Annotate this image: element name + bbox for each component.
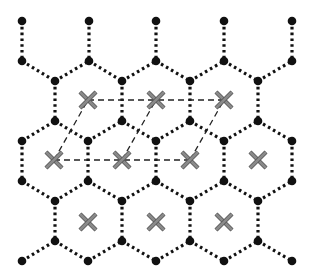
x-mark-icon: [148, 214, 164, 230]
lattice-node: [51, 117, 60, 126]
bond: [258, 181, 292, 201]
bond: [22, 241, 55, 261]
lattice-node: [186, 117, 195, 126]
lattice-node: [51, 237, 60, 246]
lattice-node: [18, 17, 27, 26]
bond: [156, 181, 190, 201]
lattice-node: [118, 77, 127, 86]
lattice-node: [118, 197, 127, 206]
lattice-node: [220, 177, 229, 186]
lattice-node: [51, 77, 60, 86]
lattice-node: [220, 257, 229, 266]
lattice-node: [288, 177, 297, 186]
lattice-node: [118, 117, 127, 126]
lattice-node: [186, 197, 195, 206]
x-mark-icon: [216, 214, 232, 230]
lattice-node: [18, 57, 27, 66]
bond: [55, 181, 88, 201]
lattice-node: [288, 57, 297, 66]
lattice-node: [288, 137, 297, 146]
bond: [156, 61, 190, 81]
lattice-node: [18, 137, 27, 146]
bond: [224, 61, 258, 81]
lattice-node: [220, 57, 229, 66]
lattice-node: [152, 17, 161, 26]
unit-cell-edge: [122, 100, 156, 160]
bond: [122, 181, 156, 201]
bond: [258, 121, 292, 141]
bond: [224, 121, 258, 141]
bond: [55, 121, 88, 141]
bond: [88, 181, 122, 201]
lattice-nodes: [18, 17, 297, 266]
lattice-node: [254, 197, 263, 206]
bond: [156, 121, 190, 141]
bond: [22, 181, 55, 201]
bond: [258, 61, 292, 81]
bond: [156, 241, 190, 261]
bond: [88, 241, 122, 261]
bond: [190, 181, 224, 201]
lattice-node: [118, 237, 127, 246]
lattice-node: [152, 137, 161, 146]
bond: [224, 181, 258, 201]
lattice-node: [254, 237, 263, 246]
bond: [22, 61, 55, 81]
x-mark-icon: [80, 214, 96, 230]
lattice-node: [85, 57, 94, 66]
honeycomb-lattice-diagram: [0, 0, 311, 279]
lattice-node: [152, 257, 161, 266]
unit-cell-edge: [54, 100, 88, 160]
bond: [55, 241, 88, 261]
lattice-node: [152, 57, 161, 66]
lattice-node: [288, 17, 297, 26]
bond: [122, 61, 156, 81]
bond: [190, 241, 224, 261]
unit-cell-edge: [190, 100, 224, 160]
lattice-node: [220, 137, 229, 146]
lattice-canvas: [0, 0, 311, 279]
lattice-node: [84, 257, 93, 266]
lattice-node: [254, 117, 263, 126]
lattice-node: [84, 137, 93, 146]
bond: [89, 61, 122, 81]
lattice-node: [18, 177, 27, 186]
bond: [22, 121, 55, 141]
bond: [258, 241, 292, 261]
bond: [224, 241, 258, 261]
lattice-node: [288, 257, 297, 266]
lattice-node: [152, 177, 161, 186]
unit-cell-lines: [54, 100, 224, 160]
lattice-node: [51, 197, 60, 206]
lattice-node: [186, 77, 195, 86]
lattice-node: [186, 237, 195, 246]
bond: [55, 61, 89, 81]
lattice-node: [85, 17, 94, 26]
lattice-node: [84, 177, 93, 186]
bond: [88, 121, 122, 141]
bond: [190, 61, 224, 81]
lattice-node: [254, 77, 263, 86]
bond: [122, 241, 156, 261]
x-mark-icon: [250, 152, 266, 168]
lattice-node: [18, 257, 27, 266]
lattice-node: [220, 17, 229, 26]
